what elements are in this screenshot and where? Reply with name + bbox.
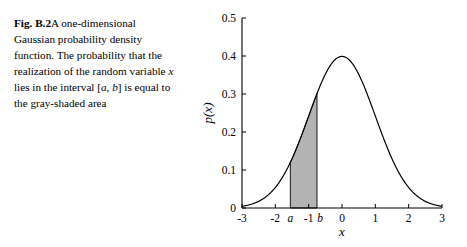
- x-tick-label: -2: [271, 212, 281, 224]
- figure-caption-text-2: lies in the interval [: [14, 81, 101, 93]
- x-axis-label: x: [338, 224, 345, 239]
- x-tick-label: 2: [406, 212, 412, 224]
- figure-page: Fig. B.2A one-dimensional Gaussian proba…: [0, 0, 467, 247]
- figure-caption: Fig. B.2A one-dimensional Gaussian proba…: [14, 16, 174, 111]
- y-tick-label: 0: [230, 202, 236, 214]
- y-tick-label: 0.1: [222, 164, 237, 176]
- y-tick-label: 0.4: [222, 50, 237, 62]
- shaded-area: [290, 94, 317, 208]
- x-axis-ticks: -3-2-10123: [237, 204, 445, 224]
- x-tick-label: 1: [372, 212, 378, 224]
- shaded-region: [290, 94, 317, 208]
- chart-svg: -3-2-10123 00.10.20.30.40.5 x p(x) a b: [196, 8, 456, 240]
- interval-label-b: b: [317, 212, 323, 224]
- gaussian-curve: [242, 56, 442, 206]
- y-tick-label: 0.5: [222, 12, 237, 24]
- figure-caption-var-x: x: [168, 65, 173, 77]
- interval-label-a: a: [287, 212, 293, 224]
- figure-caption-label: Fig. B.2: [14, 17, 51, 29]
- x-tick-label: 3: [439, 212, 445, 224]
- y-tick-label: 0.3: [222, 88, 237, 100]
- x-tick-label: -3: [237, 212, 247, 224]
- x-tick-label: 0: [339, 212, 345, 224]
- y-axis-label: p(x): [200, 103, 215, 125]
- x-tick-label: -1: [304, 212, 314, 224]
- gaussian-pdf-chart: -3-2-10123 00.10.20.30.40.5 x p(x) a b: [196, 8, 456, 240]
- y-tick-label: 0.2: [222, 126, 237, 138]
